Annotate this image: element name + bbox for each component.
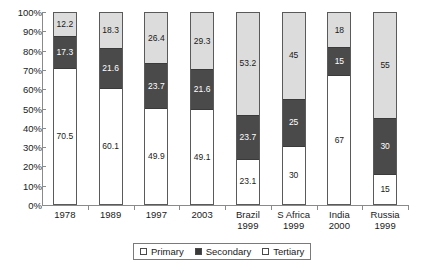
x-axis-label-line1: Brazil bbox=[236, 209, 260, 220]
bar-segment-secondary[interactable]: 15 bbox=[328, 47, 350, 76]
bar-column[interactable]: 23.123.753.2 bbox=[236, 12, 260, 205]
bar-segment-secondary[interactable]: 23.7 bbox=[145, 63, 167, 108]
x-axis-tick-mark bbox=[271, 206, 272, 210]
bar-column[interactable]: 70.517.312.2 bbox=[53, 12, 77, 205]
x-axis-tick-mark bbox=[134, 206, 135, 210]
bar-segment-secondary[interactable]: 17.3 bbox=[54, 36, 76, 69]
bar-segment-value-label: 45 bbox=[289, 51, 298, 60]
bar-column[interactable]: 60.121.618.3 bbox=[99, 12, 123, 205]
y-axis-tick-label: 30% bbox=[4, 143, 42, 153]
bar-segment-value-label: 49.1 bbox=[194, 153, 211, 162]
bar-segment-primary[interactable]: 49.9 bbox=[145, 109, 167, 204]
bar-segment-tertiary[interactable]: 53.2 bbox=[237, 13, 259, 115]
bar-segment-value-label: 17.3 bbox=[57, 48, 74, 57]
x-axis-label-line1: Russia bbox=[371, 209, 400, 220]
x-axis-label-line2: 2000 bbox=[317, 220, 363, 231]
bar-segment-tertiary[interactable]: 26.4 bbox=[145, 13, 167, 63]
y-axis-tick-label: 60% bbox=[4, 85, 42, 95]
bar-segment-secondary[interactable]: 25 bbox=[283, 99, 305, 147]
bar-segment-value-label: 15 bbox=[380, 185, 389, 194]
y-axis-tick-label: 50% bbox=[4, 104, 42, 114]
y-axis-tick-label: 20% bbox=[4, 162, 42, 172]
legend-swatch-primary-icon bbox=[140, 248, 147, 255]
x-axis-label-line1: S Africa bbox=[277, 209, 310, 220]
bar-segment-value-label: 25 bbox=[289, 118, 298, 127]
bar-segment-secondary[interactable]: 30 bbox=[374, 118, 396, 175]
y-axis-tick-label: 70% bbox=[4, 65, 42, 75]
bar-segment-value-label: 30 bbox=[380, 142, 389, 151]
y-axis-tick-label: 40% bbox=[4, 123, 42, 133]
bar-segment-tertiary[interactable]: 18 bbox=[328, 13, 350, 47]
bar-segment-tertiary[interactable]: 29.3 bbox=[191, 13, 213, 69]
bar-segment-secondary[interactable]: 21.6 bbox=[191, 69, 213, 110]
x-axis-label-line1: 2003 bbox=[192, 209, 213, 220]
x-axis-tick-mark bbox=[225, 206, 226, 210]
bar-segment-primary[interactable]: 30 bbox=[283, 147, 305, 204]
bar-column[interactable]: 49.121.629.3 bbox=[190, 12, 214, 205]
bar-segment-value-label: 49.9 bbox=[148, 152, 165, 161]
bar-segment-value-label: 53.2 bbox=[240, 59, 257, 68]
x-axis-tick-mark bbox=[362, 206, 363, 210]
bar-segment-primary[interactable]: 70.5 bbox=[54, 69, 76, 204]
x-axis-tick-mark bbox=[88, 206, 89, 210]
bar-segment-value-label: 29.3 bbox=[194, 37, 211, 46]
bar-segment-value-label: 15 bbox=[335, 57, 344, 66]
bar-segment-tertiary[interactable]: 12.2 bbox=[54, 13, 76, 36]
x-axis-label-line1: 1978 bbox=[54, 209, 75, 220]
legend-label-secondary: Secondary bbox=[206, 246, 251, 257]
legend-item-secondary[interactable]: Secondary bbox=[195, 246, 251, 257]
bar-segment-value-label: 26.4 bbox=[148, 34, 165, 43]
bar-segment-value-label: 60.1 bbox=[102, 142, 119, 151]
bar-column[interactable]: 671518 bbox=[327, 12, 351, 205]
x-axis-category-label: Russia1999 bbox=[362, 209, 408, 231]
legend-item-tertiary[interactable]: Tertiary bbox=[262, 246, 304, 257]
legend-label-tertiary: Tertiary bbox=[273, 246, 304, 257]
chart-legend: Primary Secondary Tertiary bbox=[133, 243, 311, 260]
legend-swatch-secondary-icon bbox=[195, 248, 202, 255]
bar-segment-value-label: 18.3 bbox=[102, 26, 119, 35]
x-axis-category-label: India2000 bbox=[317, 209, 363, 231]
bar-segment-value-label: 70.5 bbox=[57, 132, 74, 141]
bar-segment-value-label: 23.7 bbox=[240, 133, 257, 142]
x-axis-tick-mark bbox=[179, 206, 180, 210]
x-axis-category-label: S Africa1999 bbox=[271, 209, 317, 231]
x-axis-label-line2: 1999 bbox=[225, 220, 271, 231]
y-axis: 100% 90% 80% 70% 60% 50% 40% 30% 20% 10%… bbox=[0, 0, 42, 271]
x-axis-label-line1: 1989 bbox=[100, 209, 121, 220]
x-axis-label-line2: 1999 bbox=[271, 220, 317, 231]
y-axis-tick-label: 0% bbox=[4, 201, 42, 211]
x-axis-category-label: 1989 bbox=[88, 209, 134, 220]
legend-swatch-tertiary-icon bbox=[262, 248, 269, 255]
legend-label-primary: Primary bbox=[151, 246, 184, 257]
bar-segment-secondary[interactable]: 21.6 bbox=[100, 48, 122, 89]
bar-segment-value-label: 30 bbox=[289, 171, 298, 180]
bar-column[interactable]: 153055 bbox=[373, 12, 397, 205]
x-axis-category-label: Brazil1999 bbox=[225, 209, 271, 231]
x-axis-tick-mark bbox=[408, 206, 409, 210]
bar-segment-tertiary[interactable]: 45 bbox=[283, 13, 305, 99]
bar-segment-primary[interactable]: 15 bbox=[374, 175, 396, 204]
bar-segment-primary[interactable]: 23.1 bbox=[237, 160, 259, 204]
bar-segment-value-label: 21.6 bbox=[194, 85, 211, 94]
bar-column[interactable]: 302545 bbox=[282, 12, 306, 205]
bar-segment-value-label: 18 bbox=[335, 26, 344, 35]
x-axis-category-label: 2003 bbox=[179, 209, 225, 220]
bar-segment-primary[interactable]: 60.1 bbox=[100, 89, 122, 204]
bar-segment-tertiary[interactable]: 18.3 bbox=[100, 13, 122, 48]
x-axis-category-label: 1978 bbox=[42, 209, 88, 220]
bar-segment-primary[interactable]: 49.1 bbox=[191, 110, 213, 204]
x-axis-tick-mark bbox=[317, 206, 318, 210]
bar-segment-secondary[interactable]: 23.7 bbox=[237, 115, 259, 160]
bar-segment-value-label: 67 bbox=[335, 136, 344, 145]
bar-column[interactable]: 49.923.726.4 bbox=[144, 12, 168, 205]
bar-segment-value-label: 21.6 bbox=[102, 64, 119, 73]
bar-segment-primary[interactable]: 67 bbox=[328, 76, 350, 204]
plot-area: 70.517.312.260.121.618.349.923.726.449.1… bbox=[42, 12, 408, 205]
x-axis-category-label: 1997 bbox=[134, 209, 180, 220]
x-axis-label-line1: 1997 bbox=[146, 209, 167, 220]
x-axis-label-line2: 1999 bbox=[362, 220, 408, 231]
bar-segment-value-label: 12.2 bbox=[57, 20, 74, 29]
bar-segment-tertiary[interactable]: 55 bbox=[374, 13, 396, 118]
legend-item-primary[interactable]: Primary bbox=[140, 246, 184, 257]
stacked-bar-chart: 100% 90% 80% 70% 60% 50% 40% 30% 20% 10%… bbox=[0, 0, 430, 271]
